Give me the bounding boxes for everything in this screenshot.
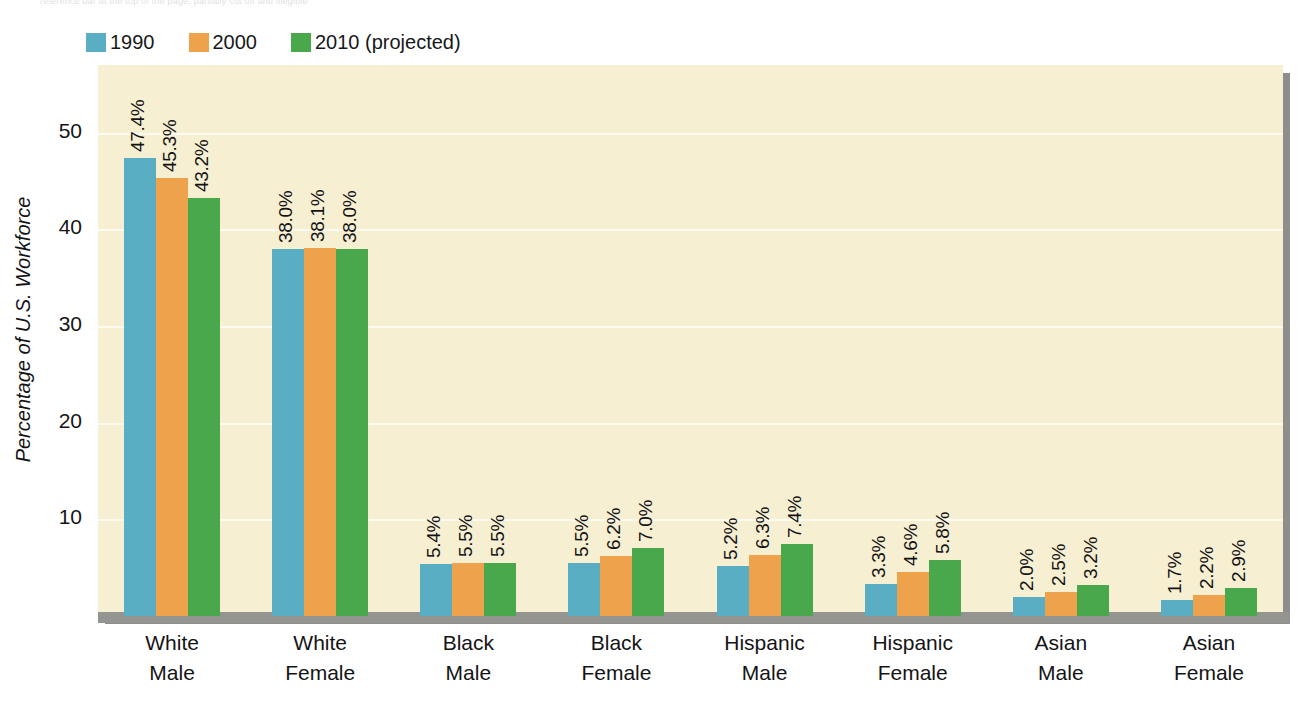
legend-item-2000: 2000	[189, 32, 258, 52]
category-label: BlackMale	[394, 628, 542, 688]
category-label-line: Black	[394, 628, 542, 658]
bar[interactable]: 43.2%	[188, 198, 220, 616]
bar-group: 3.3%4.6%5.8%	[865, 65, 961, 616]
category-labels: WhiteMaleWhiteFemaleBlackMaleBlackFemale…	[98, 628, 1283, 698]
legend-swatch-2010	[291, 33, 311, 52]
bar-value-label: 38.1%	[307, 189, 329, 241]
bar[interactable]: 7.0%	[632, 548, 664, 616]
y-tick-label: 30	[28, 312, 82, 336]
category-label-line: Female	[1135, 658, 1283, 688]
bar-value-label: 5.2%	[720, 518, 742, 560]
top-caption: reference bar at the top of the page, pa…	[40, 0, 740, 8]
bar-value-label: 38.0%	[339, 190, 361, 242]
bar[interactable]: 7.4%	[781, 544, 813, 616]
bar[interactable]: 5.8%	[929, 560, 961, 616]
bar[interactable]: 2.0%	[1013, 597, 1045, 616]
legend-swatch-1990	[86, 33, 106, 52]
category-label-line: Female	[542, 658, 690, 688]
bar[interactable]: 5.5%	[452, 563, 484, 616]
bar-fill	[272, 249, 304, 616]
bar[interactable]: 5.5%	[484, 563, 516, 616]
y-tick-label: 40	[28, 215, 82, 239]
category-label: BlackFemale	[542, 628, 690, 688]
bar-value-label: 7.4%	[784, 496, 806, 538]
bar-fill	[568, 563, 600, 616]
bar-fill	[1077, 585, 1109, 616]
bar-value-label: 5.5%	[455, 515, 477, 557]
bar[interactable]: 2.2%	[1193, 595, 1225, 616]
category-label-line: White	[246, 628, 394, 658]
bar-fill	[1013, 597, 1045, 616]
bar[interactable]: 6.3%	[749, 555, 781, 616]
bar[interactable]: 5.5%	[568, 563, 600, 616]
category-label-line: White	[98, 628, 246, 658]
bar-fill	[749, 555, 781, 616]
category-label-line: Female	[839, 658, 987, 688]
category-label-line: Black	[542, 628, 690, 658]
category-label-line: Male	[691, 658, 839, 688]
category-label-line: Hispanic	[691, 628, 839, 658]
bar[interactable]: 2.5%	[1045, 592, 1077, 616]
bar-fill	[781, 544, 813, 616]
bar-fill	[156, 178, 188, 616]
bar-value-label: 47.4%	[127, 99, 149, 151]
bar-fill	[897, 572, 929, 616]
bar-value-label: 5.8%	[932, 512, 954, 554]
legend-label-2010: 2010 (projected)	[315, 32, 461, 52]
bar[interactable]: 2.9%	[1225, 588, 1257, 616]
bar[interactable]: 5.4%	[420, 564, 452, 616]
bar-fill	[1161, 600, 1193, 616]
bar[interactable]: 38.0%	[336, 249, 368, 616]
bar-value-label: 3.2%	[1080, 537, 1102, 579]
bar-value-label: 5.4%	[423, 516, 445, 558]
bar-value-label: 38.0%	[275, 190, 297, 242]
bar-fill	[304, 248, 336, 616]
category-label-line: Male	[394, 658, 542, 688]
y-tick-label: 20	[28, 409, 82, 433]
bar-value-label: 5.5%	[487, 515, 509, 557]
bar-groups: 47.4%45.3%43.2%38.0%38.1%38.0%5.4%5.5%5.…	[98, 65, 1283, 616]
bar[interactable]: 47.4%	[124, 158, 156, 616]
bar-group: 5.5%6.2%7.0%	[568, 65, 664, 616]
bar-value-label: 2.9%	[1228, 540, 1250, 582]
bar-value-label: 3.3%	[868, 536, 890, 578]
bar-value-label: 5.5%	[571, 515, 593, 557]
bar-fill	[420, 564, 452, 616]
bar-fill	[484, 563, 516, 616]
category-label-line: Hispanic	[839, 628, 987, 658]
bar[interactable]: 3.2%	[1077, 585, 1109, 616]
bar-value-label: 6.2%	[603, 508, 625, 550]
bar[interactable]: 38.0%	[272, 249, 304, 616]
bar-group: 38.0%38.1%38.0%	[272, 65, 368, 616]
y-tick-label: 50	[28, 119, 82, 143]
bar-group: 5.2%6.3%7.4%	[717, 65, 813, 616]
bar[interactable]: 5.2%	[717, 566, 749, 616]
bar-fill	[188, 198, 220, 616]
bar[interactable]: 6.2%	[600, 556, 632, 616]
legend-swatch-2000	[189, 33, 209, 52]
bar-fill	[1225, 588, 1257, 616]
category-label: AsianFemale	[1135, 628, 1283, 688]
category-label-line: Male	[987, 658, 1135, 688]
bar-fill	[452, 563, 484, 616]
bar-value-label: 6.3%	[752, 507, 774, 549]
bar[interactable]: 1.7%	[1161, 600, 1193, 616]
bar[interactable]: 38.1%	[304, 248, 336, 616]
legend-label-2000: 2000	[213, 32, 258, 52]
bar-fill	[632, 548, 664, 616]
legend-item-2010: 2010 (projected)	[291, 32, 461, 52]
category-label-line: Female	[246, 658, 394, 688]
category-label-line: Male	[98, 658, 246, 688]
bar-fill	[717, 566, 749, 616]
category-label-line: Asian	[1135, 628, 1283, 658]
bar[interactable]: 45.3%	[156, 178, 188, 616]
y-tick-label: 10	[28, 505, 82, 529]
bar-value-label: 2.5%	[1048, 544, 1070, 586]
bar[interactable]: 3.3%	[865, 584, 897, 616]
bar-value-label: 2.0%	[1016, 549, 1038, 591]
bar[interactable]: 4.6%	[897, 572, 929, 616]
bar-value-label: 4.6%	[900, 523, 922, 565]
bar-value-label: 7.0%	[635, 500, 657, 542]
bar-group: 47.4%45.3%43.2%	[124, 65, 220, 616]
bar-value-label: 1.7%	[1164, 551, 1186, 593]
